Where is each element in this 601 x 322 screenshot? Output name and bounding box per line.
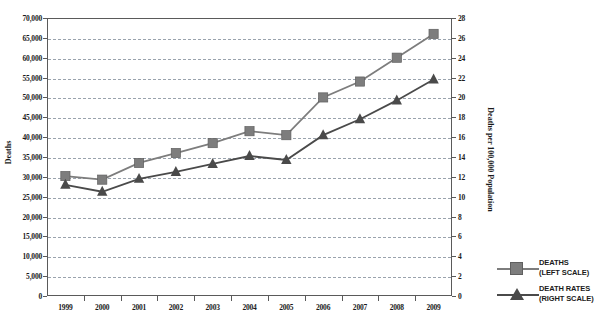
x-axis-tick-label: 2005	[266, 303, 306, 312]
triangle-marker-icon	[244, 150, 254, 160]
x-axis-tick-mark	[194, 296, 195, 301]
x-axis-tick-label: 2004	[230, 303, 270, 312]
legend-key-deaths	[497, 259, 539, 277]
x-axis-tick-label: 2009	[414, 303, 454, 312]
x-axis-tick-mark	[415, 296, 416, 301]
legend-item-deaths: DEATHS (LEFT SCALE)	[497, 258, 601, 277]
y-axis-left-tick-label: 70,000	[0, 14, 44, 23]
y-axis-right-tick-mark	[452, 58, 456, 59]
square-marker-icon	[245, 127, 254, 136]
x-axis-tick-label: 2008	[377, 303, 417, 312]
x-axis-tick-label: 2003	[193, 303, 233, 312]
square-marker-icon	[392, 53, 401, 62]
x-axis-tick-label: 2006	[303, 303, 343, 312]
x-axis-tick-label: 2000	[82, 303, 122, 312]
x-axis-tick-mark	[121, 296, 122, 301]
y-axis-right-tick-mark	[452, 18, 456, 19]
y-axis-left-tick-label: 15,000	[0, 232, 44, 241]
y-axis-left-tick-label: 65,000	[0, 33, 44, 42]
y-axis-right-tick-mark	[452, 117, 456, 118]
y-axis-left-tick-label: 25,000	[0, 192, 44, 201]
legend-label-death-rates-scale: (RIGHT SCALE)	[539, 294, 594, 304]
y-axis-right-tick-mark	[452, 236, 456, 237]
y-axis-right-tick-label: 6	[455, 232, 498, 241]
x-axis-tick-mark	[231, 296, 232, 301]
square-marker-icon	[429, 29, 438, 38]
square-marker-icon	[319, 93, 328, 102]
triangle-marker-icon	[428, 74, 438, 84]
x-axis-tick-mark	[84, 296, 85, 301]
triangle-marker-icon	[510, 288, 524, 300]
y-axis-left-tick-label: 50,000	[0, 93, 44, 102]
y-axis-right-tick-label: 22	[455, 73, 498, 82]
x-axis-tick-mark	[342, 296, 343, 301]
legend-item-death-rates: DEATH RATES (RIGHT SCALE)	[497, 284, 601, 303]
x-axis-tick-label: 1999	[45, 303, 85, 312]
y-axis-right-tick-mark	[452, 197, 456, 198]
y-axis-left-tick-label: 0	[0, 292, 44, 301]
triangle-marker-icon	[392, 94, 402, 104]
y-axis-right-tick-mark	[452, 296, 456, 297]
x-axis-tick-label: 2007	[340, 303, 380, 312]
y-axis-right-tick-mark	[452, 177, 456, 178]
square-marker-icon	[134, 158, 143, 167]
y-axis-right-tick-label: 0	[455, 292, 498, 301]
square-marker-icon	[510, 262, 523, 275]
y-axis-right-tick-mark	[452, 157, 456, 158]
y-axis-left-tick-label: 20,000	[0, 212, 44, 221]
y-axis-right-tick-mark	[452, 256, 456, 257]
y-axis-left-tick-mark	[43, 296, 47, 297]
y-axis-right-tick-label: 28	[455, 14, 498, 23]
square-marker-icon	[208, 139, 217, 148]
legend-label-death-rates: DEATH RATES (RIGHT SCALE)	[539, 284, 594, 303]
square-marker-icon	[355, 77, 364, 86]
y-axis-left-tick-label: 10,000	[0, 252, 44, 261]
y-axis-left-tick-label: 5,000	[0, 272, 44, 281]
legend-label-deaths-name: DEATHS	[539, 258, 589, 268]
square-marker-icon	[98, 175, 107, 184]
series-deaths	[61, 29, 438, 184]
x-axis-tick-mark	[157, 296, 158, 301]
x-axis-tick-mark	[378, 296, 379, 301]
y-axis-right-tick-label: 24	[455, 53, 498, 62]
y-axis-right-tick-mark	[452, 78, 456, 79]
legend-key-death-rates	[497, 285, 539, 303]
legend-label-death-rates-name: DEATH RATES	[539, 284, 594, 294]
y-axis-right-tick-label: 26	[455, 33, 498, 42]
y-axis-left-tick-label: 45,000	[0, 113, 44, 122]
chart-container: 05,00010,00015,00020,00025,00030,00035,0…	[0, 0, 601, 322]
y-axis-right-tick-label: 4	[455, 252, 498, 261]
y-axis-right-tick-label: 2	[455, 272, 498, 281]
x-axis-tick-label: 2002	[156, 303, 196, 312]
y-axis-left-title: Deaths	[4, 123, 13, 183]
legend-label-deaths-scale: (LEFT SCALE)	[539, 268, 589, 278]
y-axis-right-tick-mark	[452, 217, 456, 218]
x-axis-tick-mark	[305, 296, 306, 301]
y-axis-left-tick-label: 60,000	[0, 53, 44, 62]
y-axis-left-tick-label: 55,000	[0, 73, 44, 82]
legend-label-deaths: DEATHS (LEFT SCALE)	[539, 258, 589, 277]
square-marker-icon	[171, 148, 180, 157]
x-axis-tick-label: 2001	[119, 303, 159, 312]
x-axis-tick-mark	[268, 296, 269, 301]
chart-legend: DEATHS (LEFT SCALE) DEATH RATES (RIGHT S…	[497, 258, 601, 310]
y-axis-right-tick-mark	[452, 137, 456, 138]
y-axis-right-title: Deaths per 100,000 Population	[486, 90, 495, 230]
y-axis-right-tick-mark	[452, 97, 456, 98]
series-layer	[47, 18, 452, 296]
y-axis-right-tick-mark	[452, 38, 456, 39]
y-axis-right-tick-mark	[452, 276, 456, 277]
square-marker-icon	[282, 131, 291, 140]
